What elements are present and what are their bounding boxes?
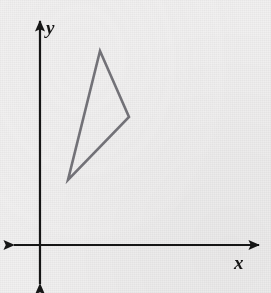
plot-canvas: [0, 0, 271, 293]
triangle-shape: [68, 51, 129, 180]
y-axis-label: y: [46, 18, 54, 37]
x-axis-label: x: [234, 253, 244, 272]
triangle-outline: [68, 51, 129, 180]
coordinate-plane-figure: y x: [0, 0, 271, 293]
